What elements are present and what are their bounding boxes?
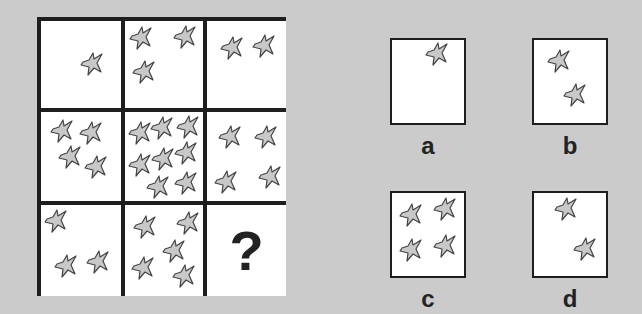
cell-r3c2 — [125, 205, 203, 296]
star-icon — [562, 82, 588, 108]
star-icon — [424, 41, 450, 67]
star-icon — [398, 202, 424, 228]
star-icon — [53, 253, 79, 279]
star-icon — [257, 164, 283, 190]
cell-r2c3 — [207, 112, 286, 201]
star-icon — [553, 196, 579, 222]
star-icon — [175, 210, 201, 236]
star-icon — [85, 249, 111, 275]
star-icon — [213, 169, 239, 195]
star-icon — [57, 144, 83, 170]
grid-divider — [41, 201, 282, 205]
option-b-label[interactable]: b — [532, 132, 608, 160]
star-icon — [79, 51, 105, 77]
grid-divider — [203, 21, 207, 292]
option-d-box[interactable] — [532, 191, 608, 278]
star-icon — [398, 237, 424, 263]
cell-r1c2 — [125, 21, 203, 108]
star-icon — [171, 263, 197, 289]
question-mark: ? — [207, 205, 286, 296]
star-icon — [132, 214, 158, 240]
star-icon — [49, 118, 75, 144]
puzzle-matrix: ? — [37, 17, 286, 296]
option-a-box[interactable] — [390, 38, 466, 125]
star-icon — [251, 33, 277, 59]
star-icon — [175, 114, 201, 140]
star-icon — [161, 238, 187, 264]
star-icon — [131, 59, 157, 85]
grid-divider — [41, 108, 282, 112]
star-icon — [546, 48, 572, 74]
cell-r3c3-missing: ? — [207, 205, 286, 296]
star-icon — [172, 24, 198, 50]
cell-r3c1 — [41, 205, 121, 296]
cell-r1c1 — [41, 21, 121, 108]
star-icon — [219, 35, 245, 61]
star-icon — [78, 120, 104, 146]
cell-r2c1 — [41, 112, 121, 201]
star-icon — [217, 124, 243, 150]
cell-r2c2 — [125, 112, 203, 201]
star-icon — [173, 170, 199, 196]
grid-divider — [121, 21, 125, 292]
option-c-box[interactable] — [390, 191, 466, 278]
star-icon — [130, 255, 156, 281]
star-icon — [43, 208, 69, 234]
option-b-box[interactable] — [532, 38, 608, 125]
option-c-label[interactable]: c — [390, 285, 466, 313]
star-icon — [128, 25, 154, 51]
star-icon — [253, 124, 279, 150]
star-icon — [83, 154, 109, 180]
option-d-label[interactable]: d — [532, 285, 608, 313]
star-icon — [149, 115, 175, 141]
star-icon — [432, 196, 458, 222]
star-icon — [145, 174, 171, 200]
option-a-label[interactable]: a — [390, 132, 466, 160]
cell-r1c3 — [207, 21, 286, 108]
star-icon — [173, 140, 199, 166]
star-icon — [572, 236, 598, 262]
star-icon — [432, 233, 458, 259]
